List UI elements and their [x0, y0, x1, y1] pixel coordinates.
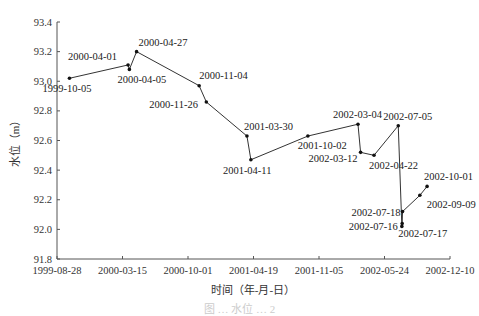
water-level-chart: 93.493.293.092.892.692.492.292.091.8 199…: [0, 0, 479, 316]
point-date-label: 2002-07-16: [349, 221, 398, 232]
point-date-label: 2002-09-09: [427, 199, 476, 210]
y-tick-label: 92.8: [34, 105, 52, 116]
data-point-marker: [197, 84, 201, 88]
data-point-marker: [396, 124, 400, 128]
y-tick-label: 92.2: [34, 194, 52, 205]
point-date-label: 2000-04-01: [68, 51, 117, 62]
x-tick-label: 2001-11-05: [295, 265, 344, 276]
point-date-label: 2000-11-04: [199, 70, 248, 81]
point-date-label: 2000-04-05: [117, 74, 166, 85]
point-date-label: 2002-07-17: [398, 228, 447, 239]
data-point-marker: [249, 158, 253, 162]
x-axis-title: 时间（年-月-日）: [211, 283, 295, 296]
point-date-label: 2002-03-04: [333, 109, 383, 120]
point-date-label: 2001-03-30: [244, 121, 293, 132]
point-labels: 1999-10-052000-04-012000-04-052000-04-27…: [42, 37, 475, 240]
point-date-label: 2000-11-26: [149, 99, 198, 110]
x-tick-label: 2002-05-24: [360, 265, 410, 276]
y-tick-label: 92.4: [34, 165, 53, 176]
y-axis-ticks: 93.493.293.092.892.692.492.292.091.8: [34, 17, 60, 265]
data-point-marker: [418, 194, 422, 198]
point-date-label: 2001-10-02: [298, 140, 347, 151]
data-point-marker: [135, 50, 139, 54]
point-date-label: 2002-03-12: [309, 153, 358, 164]
x-tick-label: 2001-04-19: [229, 265, 278, 276]
point-date-label: 2000-04-27: [139, 37, 188, 48]
point-date-label: 2002-07-05: [383, 111, 432, 122]
point-date-label: 2002-04-22: [369, 160, 418, 171]
data-point-marker: [126, 63, 130, 67]
data-point-marker: [401, 210, 405, 214]
y-tick-label: 92.6: [34, 135, 52, 146]
x-tick-label: 1999-08-28: [33, 265, 82, 276]
point-date-label: 1999-10-05: [42, 83, 91, 94]
data-point-marker: [306, 134, 310, 138]
data-point-marker: [245, 134, 249, 138]
x-tick-label: 2000-03-15: [98, 265, 147, 276]
data-point-marker: [128, 68, 132, 72]
point-date-label: 2002-10-01: [424, 171, 473, 182]
data-point-marker: [372, 154, 376, 158]
data-point-marker: [425, 185, 429, 189]
data-point-marker: [205, 100, 209, 104]
data-point-marker: [400, 222, 404, 226]
x-tick-label: 2002-12-10: [426, 265, 475, 276]
data-point-marker: [68, 76, 72, 80]
y-axis-title: 水位（m）: [8, 115, 21, 168]
point-date-label: 2001-04-11: [223, 165, 272, 176]
y-tick-label: 93.4: [34, 17, 53, 28]
data-point-marker: [359, 151, 363, 155]
x-tick-label: 2000-10-01: [164, 265, 213, 276]
point-date-label: 2002-07-18: [352, 207, 401, 218]
figure-caption: 图 … 水位 … 2: [0, 300, 479, 316]
y-tick-label: 91.8: [34, 254, 52, 265]
y-tick-label: 92.0: [34, 224, 52, 235]
y-tick-label: 93.2: [34, 46, 52, 57]
data-point-marker: [356, 122, 360, 126]
